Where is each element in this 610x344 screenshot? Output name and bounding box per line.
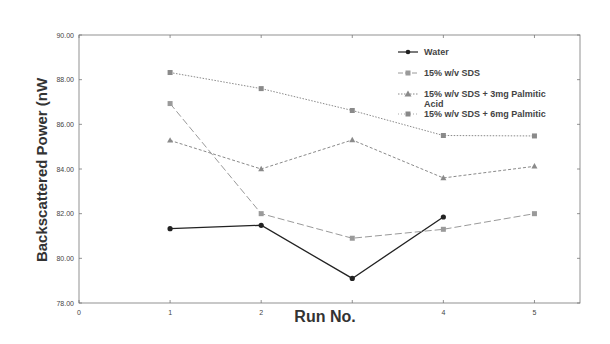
- x-tick-label: 5: [533, 309, 537, 316]
- x-tick-label: 2: [259, 309, 263, 316]
- y-tick-label: 82.00: [56, 210, 74, 217]
- data-point-marker: [350, 276, 355, 281]
- legend-label: 15% w/v SDS + 6mg Palmitic: [424, 109, 546, 119]
- data-point-marker: [168, 101, 173, 106]
- data-point-marker: [532, 211, 537, 216]
- data-point-marker: [259, 211, 264, 216]
- data-point-marker: [441, 133, 446, 138]
- y-axis-title: Backscattered Power (nW: [33, 77, 50, 262]
- y-tick-label: 80.00: [56, 255, 74, 262]
- legend-label-continued: Acid: [424, 99, 444, 109]
- plot-area: [79, 35, 580, 303]
- legend-label: 15% w/v SDS: [424, 68, 480, 78]
- y-tick-label: 90.00: [56, 32, 74, 39]
- legend-label: 15% w/v SDS + 3mg Palmitic: [424, 89, 546, 99]
- x-axis-title: Run No.: [294, 308, 355, 325]
- square-marker-icon: [406, 71, 411, 76]
- data-point-marker: [167, 226, 172, 231]
- line-chart: 78.0080.0082.0084.0086.0088.0090.00 0124…: [0, 0, 610, 344]
- data-point-marker: [441, 227, 446, 232]
- y-tick-label: 86.00: [56, 121, 74, 128]
- circle-marker-icon: [406, 50, 411, 55]
- data-point-marker: [259, 223, 264, 228]
- x-tick-label: 4: [441, 309, 445, 316]
- x-tick-label: 0: [77, 309, 81, 316]
- data-point-marker: [350, 108, 355, 113]
- y-tick-label: 84.00: [56, 166, 74, 173]
- x-tick-label: 1: [168, 309, 172, 316]
- x-square-marker-icon: [406, 112, 411, 117]
- y-tick-label: 78.00: [56, 300, 74, 307]
- data-point-marker: [441, 214, 446, 219]
- y-tick-label: 88.00: [56, 76, 74, 83]
- data-point-marker: [168, 70, 173, 75]
- legend-label: Water: [424, 47, 449, 57]
- data-point-marker: [532, 133, 537, 138]
- data-point-marker: [259, 86, 264, 91]
- data-point-marker: [350, 236, 355, 241]
